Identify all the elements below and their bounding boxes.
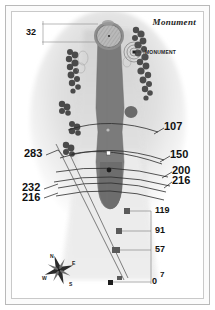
tee-box-7 bbox=[117, 276, 122, 280]
tee-label-0: 0 bbox=[152, 277, 157, 286]
callout-107: 107 bbox=[164, 121, 182, 132]
tee-label-91: 91 bbox=[155, 226, 165, 235]
green-width-value: 32 bbox=[26, 28, 36, 37]
inner-frame: Monument 32 MONUMENT 107 150 200 216 283… bbox=[11, 11, 204, 299]
compass-west-label: W bbox=[42, 276, 47, 281]
compass-north-label: N bbox=[50, 254, 54, 259]
tee-box-57 bbox=[112, 247, 120, 253]
tee-box-91 bbox=[116, 228, 122, 234]
tee-box-119 bbox=[124, 208, 130, 214]
compass-east-label: E bbox=[72, 261, 76, 266]
tee-label-119: 119 bbox=[155, 206, 170, 215]
callout-150: 150 bbox=[170, 149, 188, 160]
callout-216-left: 216 bbox=[22, 192, 40, 203]
page-title: Monument bbox=[153, 17, 196, 27]
tee-box-0 bbox=[108, 280, 113, 285]
tee-label-7: 7 bbox=[160, 271, 164, 279]
tee-label-57: 57 bbox=[155, 245, 165, 254]
callout-283: 283 bbox=[24, 148, 42, 159]
page-root: Monument 32 MONUMENT 107 150 200 216 283… bbox=[0, 0, 215, 310]
callout-216-right: 216 bbox=[172, 175, 190, 186]
bunker-behind-green bbox=[102, 20, 114, 26]
putting-green bbox=[94, 22, 124, 50]
pin-location bbox=[108, 35, 110, 37]
compass-south-label: S bbox=[69, 282, 73, 287]
bunker-right bbox=[125, 106, 138, 118]
monument-label: MONUMENT bbox=[145, 50, 176, 55]
